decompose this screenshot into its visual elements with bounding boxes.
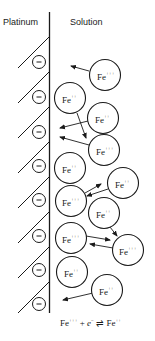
arrow-icon [60,137,89,145]
arrow-icon [71,66,89,71]
equation-lhs-species: Fe [60,318,69,328]
redox-equation: Fe+++ + e− ⇌ Fe++ [60,318,121,328]
arrow-icon [77,113,86,138]
equation-plus: + [77,318,87,328]
arrow-icon [110,227,117,236]
equilibrium-arrow-icon: ⇌ [94,318,107,328]
arrow-icon [85,184,101,193]
arrow-icon [90,244,113,248]
electrode-hatching [18,37,49,313]
ion-charge: +++ [106,71,115,76]
equation-rhs-charge: ++ [115,318,121,323]
arrow-icon [86,236,110,240]
arrow-icon [60,121,88,128]
electrode-diagram: Fe+++ Fe++ Fe++ Fe+++ Fe++ Fe++ Fe+++ Fe… [0,0,155,341]
arrow-icon [63,293,93,300]
ion-species: Fe [97,72,106,82]
